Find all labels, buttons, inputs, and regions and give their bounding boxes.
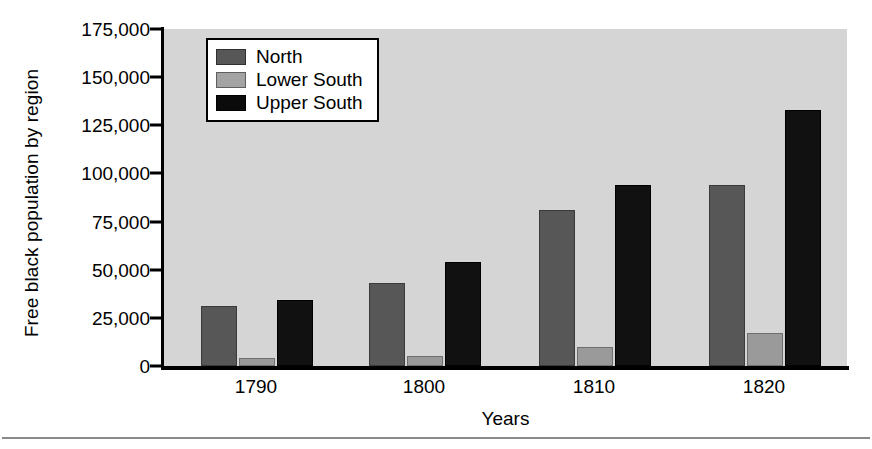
legend-item-label: Upper South xyxy=(256,93,363,112)
legend-item-label: Lower South xyxy=(256,70,363,89)
x-axis-tick-label: 1820 xyxy=(704,377,824,396)
x-axis-line xyxy=(161,366,849,370)
plot-area: NorthLower SouthUpper South xyxy=(164,29,847,366)
x-axis-tick-label: 1810 xyxy=(534,377,654,396)
x-axis-title: Years xyxy=(164,408,847,430)
legend-swatch-icon xyxy=(216,95,246,111)
legend-item-lower-south[interactable]: Lower South xyxy=(216,68,363,91)
bar-north-1820[interactable] xyxy=(709,185,745,366)
x-axis-tick-labels: 1790180018101820 xyxy=(164,377,847,403)
legend-swatch-icon xyxy=(216,49,246,65)
legend-item-label: North xyxy=(256,47,302,66)
legend-swatch-icon xyxy=(216,72,246,88)
bar-lower-south-1820[interactable] xyxy=(747,333,783,366)
x-axis-tick-label: 1790 xyxy=(196,377,316,396)
legend-item-north[interactable]: North xyxy=(216,45,363,68)
chart-figure: Free black population by region 025,0005… xyxy=(0,0,872,449)
bar-upper-south-1820[interactable] xyxy=(785,110,821,366)
x-axis-tick-label: 1800 xyxy=(364,377,484,396)
bottom-divider xyxy=(2,437,870,439)
chart-legend: NorthLower SouthUpper South xyxy=(206,38,379,122)
legend-item-upper-south[interactable]: Upper South xyxy=(216,91,363,114)
